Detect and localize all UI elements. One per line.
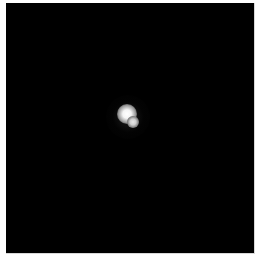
image-frame (6, 3, 255, 254)
secondary-light-source (127, 116, 139, 128)
